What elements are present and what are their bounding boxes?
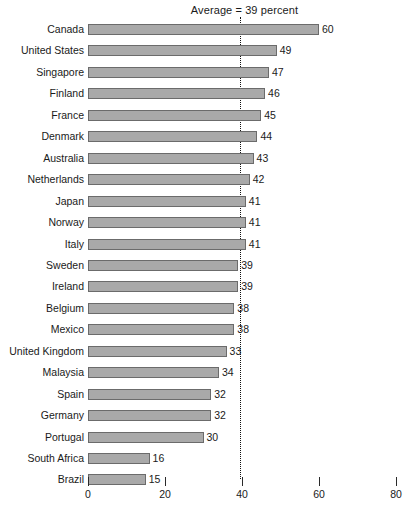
x-axis-tick bbox=[396, 477, 397, 486]
bar-chart: Average = 39 percent Canada60United Stat… bbox=[0, 0, 409, 506]
x-axis-tick bbox=[165, 477, 166, 486]
x-axis-tick-label: 20 bbox=[159, 489, 171, 500]
x-axis-tick-label: 80 bbox=[390, 489, 402, 500]
x-axis-tick bbox=[88, 477, 89, 486]
x-axis: 020406080 bbox=[0, 0, 409, 506]
x-axis-tick bbox=[319, 477, 320, 486]
x-axis-tick bbox=[242, 477, 243, 486]
x-axis-tick-label: 60 bbox=[313, 489, 325, 500]
x-axis-tick-label: 40 bbox=[236, 489, 248, 500]
x-axis-tick-label: 0 bbox=[85, 489, 91, 500]
